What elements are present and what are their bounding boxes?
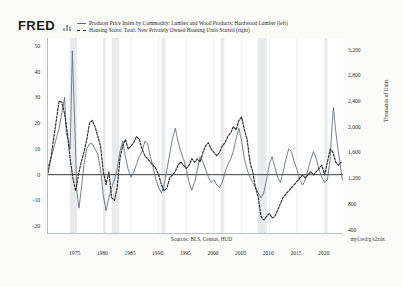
y-tick-right: 2,000 [348,124,378,130]
chart-legend: Producer Price Index by Commodity: Lumbe… [77,20,288,35]
fred-chart-page: FRED Producer Price Index by Commodity: … [0,0,403,287]
legend-item-ppi[interactable]: Producer Price Index by Commodity: Lumbe… [77,20,288,27]
recession-band [161,38,165,233]
recession-band [112,38,120,233]
legend-swatch-solid [77,23,86,24]
chart-permalink[interactable]: myf.red/g/s2zdx [350,236,385,242]
series-line-ppi-hardwood-lumber [48,51,342,211]
fred-logo[interactable]: FRED [18,19,55,32]
y-tick-right: 1,200 [348,175,378,181]
y-tick-left: 40 [14,69,40,75]
y-tick-left: 10 [14,146,40,152]
chart-sources: Sources: BLS, Census, HUD [0,236,403,242]
x-tick: 1985 [118,250,142,256]
x-tick: 2005 [229,250,253,256]
legend-swatch-dashed [77,30,86,31]
x-tick: 2010 [256,250,280,256]
x-tick: 1975 [63,250,87,256]
bar-chart-icon [63,23,72,31]
recession-band [325,38,327,233]
y-tick-left: -20 [14,223,40,229]
y-tick-right: 3,200 [348,47,378,53]
y-tick-right: 1,600 [348,149,378,155]
x-tick: 1995 [173,250,197,256]
y-tick-left: 0 [14,172,40,178]
y-tick-left: -10 [14,197,40,203]
x-tick: 1980 [90,250,114,256]
x-tick: 2020 [312,250,336,256]
chart-svg [48,38,343,233]
x-tick: 1990 [146,250,170,256]
legend-label-housing-starts: Housing Starts: Total: New Privately Own… [89,27,250,34]
legend-label-ppi: Producer Price Index by Commodity: Lumbe… [89,20,288,27]
chart-plot-area[interactable] [47,38,343,234]
legend-item-housing-starts[interactable]: Housing Starts: Total: New Privately Own… [77,27,288,34]
y-tick-right: 800 [348,201,378,207]
x-tick: 2000 [201,250,225,256]
y-tick-right: 2,800 [348,72,378,78]
x-tick: 2015 [284,250,308,256]
y-tick-right: 2,400 [348,98,378,104]
y-axis-title-right: Thousands of Units [383,80,389,122]
y-tick-left: 30 [14,94,40,100]
y-tick-left: 50 [14,43,40,49]
plot-surface [48,38,343,233]
chart-header: FRED Producer Price Index by Commodity: … [0,8,403,34]
y-tick-right: 400 [348,227,378,233]
recession-band [221,38,225,233]
y-tick-left: 20 [14,120,40,126]
